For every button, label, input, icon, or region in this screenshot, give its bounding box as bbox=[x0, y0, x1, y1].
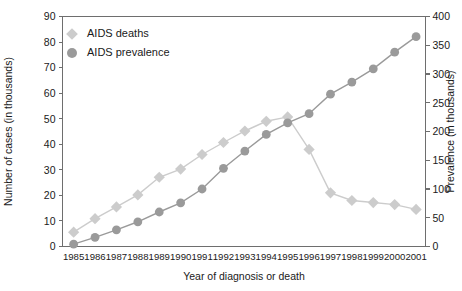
left-tick-label-0: 0 bbox=[50, 240, 56, 252]
left-tick-label-80: 80 bbox=[44, 36, 56, 48]
left-axis-title: Number of cases (in thousands) bbox=[2, 57, 14, 206]
left-tick-label-90: 90 bbox=[44, 10, 56, 22]
right-tick-label-0: 0 bbox=[433, 240, 439, 252]
x-tick-label-1990: 1990 bbox=[170, 251, 191, 262]
datapoint-aids-prevalence-1989 bbox=[155, 208, 164, 217]
datapoint-aids-prevalence-1998 bbox=[347, 78, 356, 87]
datapoint-aids-prevalence-1999 bbox=[369, 64, 378, 73]
x-tick-label-1993: 1993 bbox=[234, 251, 255, 262]
x-tick-label-1985: 1985 bbox=[63, 251, 84, 262]
right-tick-label-350: 350 bbox=[433, 39, 451, 51]
left-tick-label-40: 40 bbox=[44, 138, 56, 150]
datapoint-aids-prevalence-1987 bbox=[112, 225, 121, 234]
datapoint-aids-prevalence-1997 bbox=[326, 90, 335, 99]
x-tick-label-1991: 1991 bbox=[191, 251, 212, 262]
datapoint-aids-prevalence-2000 bbox=[390, 48, 399, 57]
right-tick-label-50: 50 bbox=[433, 212, 445, 224]
x-tick-label-1995: 1995 bbox=[277, 251, 298, 262]
x-tick-label-1997: 1997 bbox=[320, 251, 341, 262]
datapoint-aids-prevalence-1985 bbox=[69, 240, 78, 249]
right-tick-label-400: 400 bbox=[433, 10, 451, 22]
datapoint-aids-prevalence-1986 bbox=[91, 233, 100, 242]
chart-canvas: 0102030405060708090050100150200250300350… bbox=[0, 0, 462, 291]
aids-chart: 0102030405060708090050100150200250300350… bbox=[0, 0, 462, 291]
x-tick-label-1989: 1989 bbox=[149, 251, 170, 262]
left-tick-label-20: 20 bbox=[44, 189, 56, 201]
x-tick-label-1999: 1999 bbox=[363, 251, 384, 262]
left-tick-label-10: 10 bbox=[44, 215, 56, 227]
datapoint-aids-prevalence-2001 bbox=[412, 32, 421, 41]
left-tick-label-70: 70 bbox=[44, 61, 56, 73]
left-tick-label-50: 50 bbox=[44, 113, 56, 125]
legend-marker-circle bbox=[67, 48, 77, 58]
datapoint-aids-prevalence-1991 bbox=[198, 185, 207, 194]
x-tick-label-1996: 1996 bbox=[298, 251, 319, 262]
x-tick-label-1994: 1994 bbox=[256, 251, 278, 262]
x-axis-title: Year of diagnosis or death bbox=[183, 270, 305, 282]
datapoint-aids-prevalence-1988 bbox=[133, 217, 142, 226]
legend-label-1: AIDS prevalence bbox=[87, 46, 170, 58]
datapoint-aids-prevalence-1992 bbox=[219, 164, 228, 173]
x-tick-label-2001: 2001 bbox=[405, 251, 426, 262]
x-tick-label-1988: 1988 bbox=[127, 251, 148, 262]
chart-background bbox=[0, 0, 462, 291]
datapoint-aids-prevalence-1994 bbox=[262, 130, 271, 139]
x-tick-label-1992: 1992 bbox=[213, 251, 234, 262]
x-tick-label-2000: 2000 bbox=[384, 251, 405, 262]
x-tick-label-1998: 1998 bbox=[341, 251, 362, 262]
left-tick-label-30: 30 bbox=[44, 164, 56, 176]
legend-label-0: AIDS deaths bbox=[87, 27, 149, 39]
datapoint-aids-prevalence-1996 bbox=[305, 109, 314, 118]
x-tick-label-1986: 1986 bbox=[84, 251, 105, 262]
x-tick-label-1987: 1987 bbox=[106, 251, 127, 262]
right-axis-title: Prevalence (in thousands) bbox=[444, 71, 456, 193]
left-tick-label-60: 60 bbox=[44, 87, 56, 99]
datapoint-aids-prevalence-1993 bbox=[240, 147, 249, 156]
datapoint-aids-prevalence-1995 bbox=[283, 118, 292, 127]
datapoint-aids-prevalence-1990 bbox=[176, 198, 185, 207]
